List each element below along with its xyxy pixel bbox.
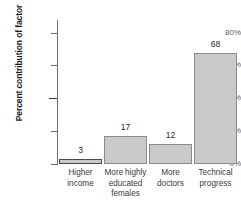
- x-category-label: Higher income: [59, 168, 103, 189]
- plot-area: 3171268: [57, 20, 237, 164]
- y-tick-mark: [49, 98, 57, 99]
- bar-value-label: 12: [149, 131, 192, 140]
- x-axis-category-labels: Higher incomeMore highly educated female…: [57, 168, 237, 212]
- bar: [194, 53, 237, 164]
- bar: [104, 136, 147, 164]
- bar-value-label: 17: [104, 123, 147, 132]
- y-axis-title: Percent contribution of factor: [14, 0, 24, 138]
- bar-value-label: 68: [194, 40, 237, 49]
- bar: [149, 144, 192, 164]
- bar-chart: Percent contribution of factor 0%20%40%6…: [0, 0, 241, 213]
- x-category-label: Technical progress: [192, 168, 240, 189]
- x-category-label: More doctors: [150, 168, 192, 189]
- bar-value-label: 3: [59, 146, 102, 155]
- x-category-label: More highly educated females: [98, 168, 154, 200]
- bar: [59, 159, 102, 164]
